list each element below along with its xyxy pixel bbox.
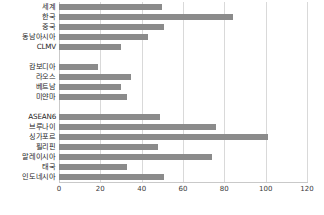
x-tick-label-40: 40 [137, 185, 146, 193]
bar [59, 164, 127, 170]
category-label: 브루나이 [0, 122, 56, 132]
x-tick-label-0: 0 [57, 185, 61, 193]
bar-row [59, 62, 307, 72]
bar-row [59, 22, 307, 32]
gridline-120 [307, 2, 308, 182]
category-label: 한국 [0, 12, 56, 22]
category-label: 필리핀 [0, 142, 56, 152]
x-tick-label-100: 100 [259, 185, 272, 193]
bar-row [59, 162, 307, 172]
category-label: 미얀마 [0, 92, 56, 102]
bar-row [59, 32, 307, 42]
category-axis-labels: 세계한국중국동남아시아CLMV캄보디아라오스베트남미얀마ASEAN6브루나이싱가… [0, 2, 56, 182]
bar [59, 124, 216, 130]
bar [59, 44, 121, 50]
category-label: 캄보디아 [0, 62, 56, 72]
bar [59, 84, 121, 90]
bar [59, 174, 164, 180]
bar-row [59, 42, 307, 52]
x-axis-tick-labels: 020406080100120 [0, 185, 324, 199]
bar-row [59, 132, 307, 142]
category-label: 동남아시아 [0, 32, 56, 42]
x-tick-label-20: 20 [96, 185, 105, 193]
bar [59, 144, 158, 150]
bar-row [59, 2, 307, 12]
category-label: 태국 [0, 162, 56, 172]
bar [59, 134, 268, 140]
bar [59, 4, 162, 10]
bar-row [59, 12, 307, 22]
bar [59, 24, 164, 30]
category-label: 라오스 [0, 72, 56, 82]
bar [59, 34, 148, 40]
category-label: 세계 [0, 2, 56, 12]
x-axis-line [59, 182, 308, 183]
bar [59, 94, 127, 100]
x-tick-label-80: 80 [220, 185, 229, 193]
bar-row [59, 112, 307, 122]
x-tick-label-120: 120 [300, 185, 313, 193]
plot-area [59, 2, 307, 182]
bar-chart: 세계한국중국동남아시아CLMV캄보디아라오스베트남미얀마ASEAN6브루나이싱가… [0, 0, 324, 215]
bar [59, 114, 160, 120]
bar-row [59, 142, 307, 152]
bar-row [59, 72, 307, 82]
category-label: 말레이시아 [0, 152, 56, 162]
bar-row [59, 82, 307, 92]
bar [59, 74, 131, 80]
category-label: ASEAN6 [0, 112, 56, 122]
bar [59, 14, 233, 20]
bar [59, 64, 98, 70]
bar-rows [59, 2, 307, 182]
category-label: 인도네시아 [0, 172, 56, 182]
bar-row [59, 172, 307, 182]
bar-row [59, 152, 307, 162]
category-label: 중국 [0, 22, 56, 32]
category-label: 싱가포르 [0, 132, 56, 142]
category-label: 베트남 [0, 82, 56, 92]
bar-row [59, 92, 307, 102]
category-label: CLMV [0, 42, 56, 52]
bar [59, 154, 212, 160]
x-tick-label-60: 60 [179, 185, 188, 193]
bar-row [59, 122, 307, 132]
